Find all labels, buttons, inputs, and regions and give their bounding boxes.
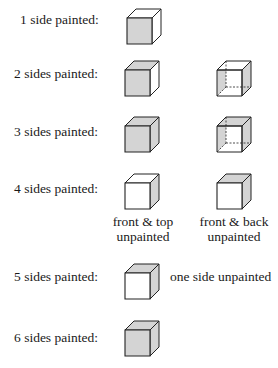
row-label-1-side: 1 side painted: (20, 12, 99, 28)
caption-front-back-unpainted: front & back unpainted (196, 214, 272, 244)
caption-front-top-unpainted: front & top unpainted (108, 214, 178, 244)
cube-4-sides-front-top-unpainted (123, 171, 161, 211)
caption-line: unpainted (108, 229, 178, 244)
cube-3-sides-visible (123, 114, 161, 154)
caption-line: front & back (196, 214, 272, 229)
cube-3-sides-transparent (215, 114, 253, 154)
cube-4-sides-front-back-unpainted (215, 171, 253, 211)
row-label-5-sides: 5 sides painted: (14, 269, 98, 285)
cube-5-sides (123, 261, 161, 301)
row-label-6-sides: 6 sides painted: (14, 330, 98, 346)
cube-6-sides (123, 318, 161, 358)
cube-2-sides-transparent (215, 58, 253, 98)
cube-1-side-front (125, 6, 163, 46)
caption-line: front & top (108, 214, 178, 229)
cube-2-sides-front-top (123, 58, 161, 98)
row-label-2-sides: 2 sides painted: (14, 66, 98, 82)
row-label-3-sides: 3 sides painted: (14, 124, 98, 140)
caption-line: unpainted (196, 229, 272, 244)
note-one-side-unpainted: one side unpainted (170, 269, 271, 285)
row-label-4-sides: 4 sides painted: (14, 181, 98, 197)
